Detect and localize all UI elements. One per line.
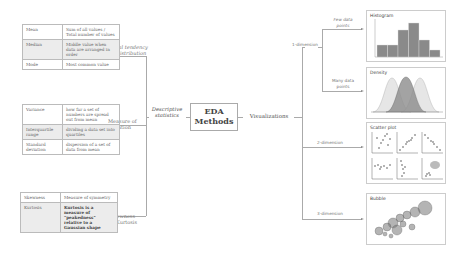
many-data-points-label: Many data points bbox=[326, 78, 360, 89]
desc-cell: Sum of all values / Total number of valu… bbox=[63, 25, 120, 40]
arrow-right-icon bbox=[361, 90, 364, 92]
bubble-chart bbox=[367, 194, 445, 244]
table-row: SkewnessMeasure of symmetry bbox=[21, 193, 118, 203]
desc-cell: Kurtosis is a measure of "peakedness" re… bbox=[61, 203, 118, 233]
one-dim-spine bbox=[322, 29, 323, 91]
few-data-points-label: Few data points bbox=[328, 17, 358, 28]
descriptive-statistics-label: Descriptive statistics bbox=[148, 107, 186, 118]
desc-cell: Middle value when data are arranged in o… bbox=[63, 40, 120, 60]
right-spine bbox=[302, 47, 303, 219]
connector bbox=[186, 117, 190, 118]
connector bbox=[302, 219, 362, 220]
connector bbox=[238, 117, 243, 118]
term-cell: Mode bbox=[23, 60, 63, 70]
connector bbox=[322, 91, 362, 92]
table-row: KurtosisKurtosis is a measure of "peaked… bbox=[21, 203, 118, 233]
table-row: ModeMost common value bbox=[23, 60, 120, 70]
label-line2: points bbox=[328, 23, 358, 29]
bubble-panel: Bubble bbox=[366, 193, 446, 245]
connector bbox=[302, 147, 362, 148]
density-panel: Density bbox=[366, 67, 446, 119]
visualizations-label: Visualizations bbox=[244, 114, 294, 120]
table-row: Interquartile rangedividing a data set i… bbox=[23, 125, 120, 140]
desc-cell: dividing a data set into quartiles bbox=[63, 125, 120, 140]
scatter-chart bbox=[367, 123, 445, 183]
term-cell: Standard deviation bbox=[23, 140, 63, 155]
connector bbox=[146, 117, 149, 118]
label-line2: points bbox=[326, 84, 360, 90]
eda-methods-node: EDA Methods bbox=[190, 103, 238, 131]
central-tendency-table: MeanSum of all values / Total number of … bbox=[22, 24, 120, 70]
desc-cell: how far a set of numbers are spread out … bbox=[63, 105, 120, 125]
table-row: MeanSum of all values / Total number of … bbox=[23, 25, 120, 40]
arrow-right-icon bbox=[361, 28, 364, 30]
desc-cell: dispersion of a set of data from mean bbox=[63, 140, 120, 155]
desc-cell: Measure of symmetry bbox=[61, 193, 118, 203]
center-title-line1: EDA bbox=[191, 106, 237, 116]
table-row: Variancehow far a set of numbers are spr… bbox=[23, 105, 120, 125]
histogram-panel: Histogram bbox=[366, 10, 446, 62]
term-cell: Median bbox=[23, 40, 63, 60]
term-cell: Interquartile range bbox=[23, 125, 63, 140]
connector bbox=[294, 117, 302, 118]
term-cell: Variance bbox=[23, 105, 63, 125]
term-cell: Skewness bbox=[21, 193, 61, 203]
variation-table: Variancehow far a set of numbers are spr… bbox=[22, 104, 120, 155]
arrow-right-icon bbox=[361, 218, 364, 220]
table-row: MedianMiddle value when data are arrange… bbox=[23, 40, 120, 60]
skewness-kurtosis-table: SkewnessMeasure of symmetry KurtosisKurt… bbox=[20, 192, 118, 233]
term-cell: Mean bbox=[23, 25, 63, 40]
scatter-plot-panel: Scatter plot bbox=[366, 122, 446, 184]
term-cell: Kurtosis bbox=[21, 203, 61, 233]
table-row: Standard deviationdispersion of a set of… bbox=[23, 140, 120, 155]
left-spine bbox=[146, 56, 147, 216]
two-dimension-label: 2-dimension bbox=[310, 140, 350, 146]
density-chart bbox=[367, 68, 445, 118]
arrow-right-icon bbox=[361, 146, 364, 148]
three-dimension-label: 3-dimension bbox=[310, 211, 350, 217]
descriptive-label-line2: statistics bbox=[148, 113, 186, 119]
connector bbox=[322, 29, 362, 30]
histogram-chart bbox=[367, 11, 445, 61]
desc-cell: Most common value bbox=[63, 60, 120, 70]
center-title-line2: Methods bbox=[191, 116, 237, 126]
